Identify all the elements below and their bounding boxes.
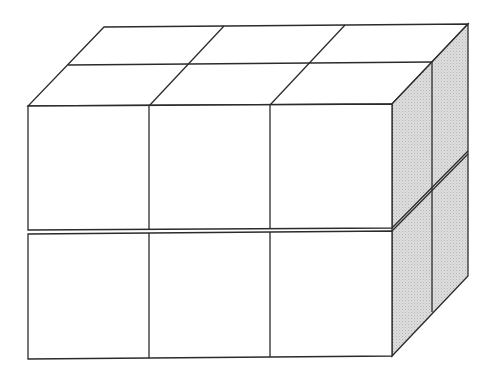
cube-stack-diagram (0, 0, 494, 382)
front-face-upper-row (28, 104, 392, 230)
front-face-lower-row (28, 231, 392, 359)
cube-stack-svg (0, 0, 494, 382)
